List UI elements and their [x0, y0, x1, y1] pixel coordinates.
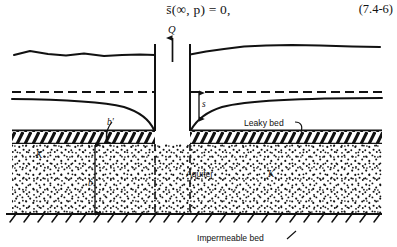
leaky-bed-thickness-label: b′ — [107, 117, 115, 127]
leaky-bed-label: Leaky bed — [244, 118, 284, 128]
impermeable-bed-leader-icon — [287, 231, 296, 239]
discharge-label: Q — [168, 24, 176, 35]
aquifer-thickness-label: b — [88, 178, 93, 188]
aquifer-label: Aquifer — [186, 169, 213, 179]
impermeable-bed-label: Impermeable bed — [197, 233, 264, 243]
cross-section-diagram: Q s b′ Leak — [0, 0, 397, 247]
drawdown-label: s — [202, 99, 206, 109]
conductivity-label-right: K — [267, 169, 275, 179]
aquifer-layer — [12, 144, 382, 214]
equation-text: s̄(∞, p) = 0, — [0, 2, 397, 18]
leaky-bed-layer — [12, 130, 382, 143]
equation-number: (7.4-6) — [359, 2, 393, 17]
figure-container: s̄(∞, p) = 0, (7.4-6) — [0, 0, 397, 247]
conductivity-label-left: K — [35, 150, 43, 160]
ground-surface — [14, 45, 380, 56]
impermeable-bed — [6, 214, 382, 222]
drawdown-cone — [12, 98, 382, 130]
equation-row: s̄(∞, p) = 0, (7.4-6) — [0, 2, 397, 24]
